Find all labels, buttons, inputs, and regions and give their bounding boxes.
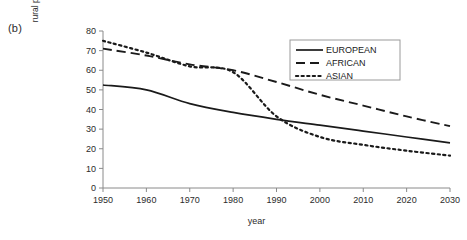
legend-label: AFRICAN	[326, 58, 366, 68]
x-axis-label-text: year	[248, 216, 266, 226]
y-axis-tick-label: 10	[86, 164, 96, 174]
legend-label: ASIAN	[326, 71, 353, 81]
y-axis-tick-label: 70	[86, 46, 96, 56]
x-axis-tick-label: 1970	[180, 195, 200, 205]
x-axis-label: year	[0, 216, 467, 226]
y-axis-tick-label: 0	[91, 183, 96, 193]
figure-panel: (b) rural population as percentage of to…	[0, 0, 467, 240]
y-axis-tick-label: 60	[86, 65, 96, 75]
chart-plot: 0102030405060708019501960197019801990200…	[0, 0, 467, 240]
x-axis-tick-label: 1950	[93, 195, 113, 205]
y-axis-tick-label: 50	[86, 85, 96, 95]
y-axis-tick-label: 40	[86, 105, 96, 115]
legend-label: EUROPEAN	[326, 45, 377, 55]
x-axis-tick-label: 2020	[397, 195, 417, 205]
x-axis-tick-label: 2000	[310, 195, 330, 205]
x-axis-tick-label: 2010	[353, 195, 373, 205]
x-axis-tick-label: 2030	[440, 195, 460, 205]
x-axis-tick-label: 1980	[223, 195, 243, 205]
y-axis-tick-label: 30	[86, 124, 96, 134]
x-axis-tick-label: 1960	[136, 195, 156, 205]
y-axis-tick-label: 80	[86, 26, 96, 36]
x-axis-tick-label: 1990	[266, 195, 286, 205]
y-axis-tick-label: 20	[86, 144, 96, 154]
